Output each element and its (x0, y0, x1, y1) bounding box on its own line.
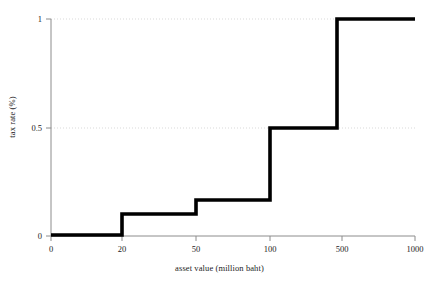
x-tick-label-20: 20 (118, 244, 127, 254)
plot-area (0, 0, 439, 286)
y-axis-title: tax rate (%) (7, 67, 17, 167)
x-tick-label-0: 0 (49, 244, 53, 254)
x-axis-title: asset value (million baht) (0, 263, 439, 273)
step-chart: 0 20 50 100 500 1000 1 0.5 0 asset value… (0, 0, 439, 286)
y-tick-label-1: 1 (38, 14, 46, 24)
x-tick-label-50: 50 (192, 244, 201, 254)
y-tick-label-0-5: 0.5 (31, 123, 46, 133)
x-tick-label-500: 500 (336, 244, 349, 254)
x-tick-label-1000: 1000 (407, 244, 424, 254)
x-tick-label-100: 100 (264, 244, 277, 254)
y-tick-label-0: 0 (38, 231, 46, 241)
tax-rate-step-line (51, 19, 415, 235)
